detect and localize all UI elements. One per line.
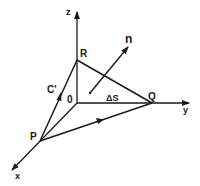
- x-axis-label: x: [15, 172, 20, 181]
- point-p-label: P: [30, 132, 37, 142]
- point-o-label: 0: [67, 95, 73, 105]
- z-axis-label: z: [66, 8, 71, 17]
- x-axis: [12, 103, 77, 170]
- curve-direction-arrow-pr: [57, 92, 62, 101]
- curve-c-prime-label: C': [47, 85, 57, 95]
- area-delta-s-label: ΔS: [106, 94, 118, 103]
- diagram-canvas: z y x 0 R Q P C' n ΔS: [0, 0, 200, 186]
- normal-n-label: n: [125, 33, 132, 45]
- point-r-label: R: [80, 49, 87, 59]
- diagram-drawing: [0, 0, 200, 186]
- curve-direction-arrow-pq: [96, 118, 104, 124]
- point-q-label: Q: [148, 92, 156, 102]
- y-axis-label: y: [183, 106, 188, 115]
- edge-p-q: [40, 103, 152, 141]
